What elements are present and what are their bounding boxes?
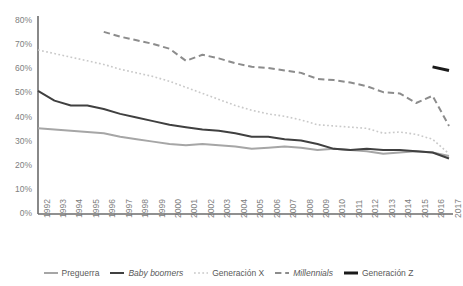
legend-swatch-icon — [194, 269, 208, 277]
series-line-generación-z — [433, 67, 449, 71]
legend-swatch-icon — [275, 269, 289, 277]
series-line-preguerra — [38, 128, 449, 156]
legend-label: Generación Z — [362, 268, 414, 278]
legend-item[interactable]: Generación Z — [344, 268, 414, 278]
legend-label: Generación X — [212, 268, 264, 278]
chart-legend: PreguerraBaby boomersGeneración XMillenn… — [0, 262, 457, 284]
series-line-millennials — [104, 32, 449, 126]
legend-item[interactable]: Baby boomers — [110, 268, 183, 278]
legend-label: Preguerra — [62, 268, 100, 278]
legend-label: Baby boomers — [128, 268, 183, 278]
legend-swatch-icon — [110, 269, 124, 277]
legend-swatch-icon — [344, 269, 358, 277]
legend-item[interactable]: Generación X — [194, 268, 264, 278]
legend-swatch-icon — [44, 269, 58, 277]
legend-item[interactable]: Preguerra — [44, 268, 100, 278]
legend-label: Millennials — [293, 268, 333, 278]
legend-item[interactable]: Millennials — [275, 268, 333, 278]
